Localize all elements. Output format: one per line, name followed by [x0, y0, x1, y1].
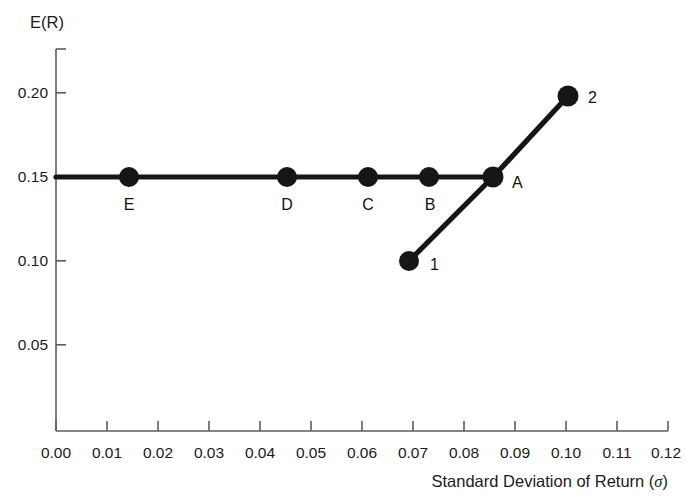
x-tick-label-0.07: 0.07 [398, 444, 428, 461]
data-point-a [483, 167, 504, 188]
data-point-b [419, 167, 439, 187]
x-axis-title-close: ) [663, 472, 669, 490]
data-point-label-a: A [512, 174, 523, 191]
chart-plot-area: 0.20 0.15 0.10 0.05 0.00 0.01 0.02 0.03 … [0, 0, 686, 496]
x-axis-title-text: Standard Deviation of Return ( [431, 472, 654, 490]
x-axis-title: Standard Deviation of Return (σ) [431, 472, 668, 491]
y-axis [56, 49, 66, 431]
data-point-1 [399, 251, 419, 271]
data-point-label-1: 1 [430, 256, 439, 273]
data-point-c [358, 167, 378, 187]
data-point-label-e: E [124, 196, 135, 213]
x-tick-label-0.12: 0.12 [651, 444, 681, 461]
x-tick-label-0.08: 0.08 [449, 444, 479, 461]
svg-text:Standard Deviation of Return (: Standard Deviation of Return (σ) [431, 472, 668, 491]
data-point-e [119, 167, 139, 187]
y-tick-label-0.15: 0.15 [18, 168, 48, 185]
x-tick-label-0.02: 0.02 [143, 444, 173, 461]
y-tick-label-0.05: 0.05 [18, 336, 48, 353]
chart-figure: 0.20 0.15 0.10 0.05 0.00 0.01 0.02 0.03 … [0, 0, 686, 496]
x-tick-label-0.10: 0.10 [551, 444, 582, 461]
data-point-label-2: 2 [588, 89, 597, 106]
data-point-label-c: C [362, 196, 374, 213]
data-point-d [277, 167, 297, 187]
x-tick-label-0.03: 0.03 [194, 444, 224, 461]
x-axis [56, 421, 668, 431]
x-tick-label-0.00: 0.00 [41, 444, 72, 461]
y-axis-title: E(R) [30, 13, 64, 31]
x-tick-label-0.05: 0.05 [296, 444, 326, 461]
y-tick-label-0.20: 0.20 [18, 84, 49, 101]
x-tick-label-0.06: 0.06 [347, 444, 377, 461]
data-point-2 [558, 86, 579, 107]
x-tick-label-0.11: 0.11 [602, 444, 631, 461]
data-point-label-b: B [425, 196, 436, 213]
x-tick-label-0.01: 0.01 [92, 444, 122, 461]
x-tick-label-0.04: 0.04 [245, 444, 276, 461]
x-tick-label-0.09: 0.09 [500, 444, 530, 461]
y-tick-label-0.10: 0.10 [18, 252, 49, 269]
data-point-label-d: D [281, 196, 293, 213]
